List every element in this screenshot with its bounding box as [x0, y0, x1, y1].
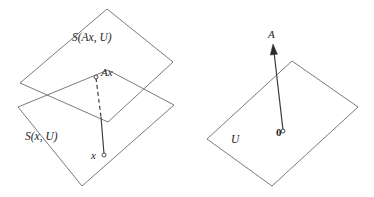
label-upper-plane: S(Ax, U)	[72, 32, 112, 44]
label-lower-plane: S(x, U)	[25, 131, 58, 143]
point-marker-ax	[94, 75, 98, 79]
vector-a-shaft	[274, 52, 283, 130]
vector-a-arrowhead	[270, 44, 277, 55]
connector-dashed-segment	[96, 78, 101, 117]
figure-canvas	[0, 0, 374, 197]
upper-plane-outline	[20, 9, 173, 122]
point-marker-x	[102, 153, 106, 157]
label-subspace-u: U	[231, 134, 239, 146]
geometric-figure: S(Ax, U) S(x, U) Ax x U A 0	[0, 0, 374, 197]
label-origin-zero: 0	[276, 127, 282, 138]
label-vector-a: A	[268, 29, 275, 40]
label-point-ax: Ax	[101, 67, 113, 78]
connector-solid-segment	[101, 117, 104, 154]
label-point-x: x	[91, 150, 96, 161]
lower-plane-outline	[18, 70, 174, 186]
